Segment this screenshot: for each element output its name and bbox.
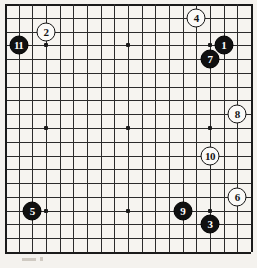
stone-black-7[interactable]: 7 [201, 50, 220, 69]
stone-white-8[interactable]: 8 [228, 105, 247, 124]
star-point [126, 209, 130, 213]
caption-dash [22, 258, 36, 261]
grid-line-vertical [73, 4, 74, 252]
star-point [208, 43, 212, 47]
grid-line-vertical [251, 4, 253, 252]
grid-line-vertical [169, 4, 170, 252]
stone-white-2[interactable]: 2 [37, 22, 56, 41]
star-point [208, 126, 212, 130]
grid-line-vertical [196, 4, 197, 252]
star-point [126, 126, 130, 130]
stone-black-9[interactable]: 9 [173, 201, 192, 220]
star-point [208, 209, 212, 213]
grid-line-vertical [237, 4, 238, 252]
star-point [44, 43, 48, 47]
star-point [126, 43, 130, 47]
grid-line-vertical [114, 4, 115, 252]
stone-black-11[interactable]: 11 [9, 36, 28, 55]
grid-line-vertical [101, 4, 102, 252]
star-point [44, 126, 48, 130]
grid-line-vertical [142, 4, 143, 252]
caption-dot [40, 257, 43, 261]
go-diagram-page: 1234567891011 [0, 0, 257, 268]
grid-line-horizontal [5, 252, 251, 254]
stone-white-10[interactable]: 10 [201, 146, 220, 165]
grid-line-vertical [155, 4, 156, 252]
stone-white-6[interactable]: 6 [228, 187, 247, 206]
star-point [44, 209, 48, 213]
grid-line-vertical [5, 4, 7, 252]
stone-black-3[interactable]: 3 [201, 215, 220, 234]
stone-white-4[interactable]: 4 [187, 8, 206, 27]
stone-black-5[interactable]: 5 [23, 201, 42, 220]
go-board[interactable]: 1234567891011 [5, 4, 251, 252]
grid-line-vertical [87, 4, 88, 252]
grid-line-vertical [60, 4, 61, 252]
